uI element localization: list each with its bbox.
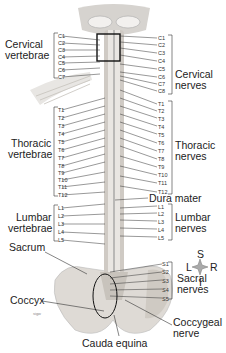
tick-left-T1: T1 (58, 107, 64, 113)
tick-right-T6: T6 (158, 140, 164, 146)
tick-left-L2: L2 (58, 213, 64, 219)
label-cervical-nerves: Cervical nerves (175, 69, 213, 91)
label-dura-mater: Dura mater (149, 193, 202, 204)
label-cauda-equina: Cauda equina (82, 338, 147, 349)
tick-right-T9: T9 (158, 164, 164, 170)
label-line: nerves (175, 80, 213, 91)
label-thoracic-vertebrae: Thoracic vertebrae (8, 138, 52, 160)
tick-left-T8: T8 (58, 163, 64, 169)
tick-left-C5: C5 (58, 60, 65, 66)
tick-left-L3: L3 (58, 221, 64, 227)
tick-right-S5: S5 (162, 296, 169, 302)
label-sacrum: Sacrum (9, 242, 45, 253)
watermark: sigw (33, 311, 41, 316)
label-line: vertebrae (8, 149, 52, 160)
tick-right-S4: S4 (162, 287, 169, 293)
label-line: nerve (173, 328, 222, 339)
tick-right-T4: T4 (158, 124, 164, 130)
tick-right-C3: C3 (158, 50, 165, 56)
tick-right-L3: L3 (158, 219, 164, 225)
label-line: vertebrae (5, 50, 49, 61)
tick-right-S3: S3 (162, 278, 169, 284)
tick-left-L1: L1 (58, 205, 64, 211)
tick-right-T8: T8 (158, 156, 164, 162)
label-coccyx: Coccyx (10, 295, 44, 306)
tick-left-C6: C6 (58, 67, 65, 73)
tick-left-T11: T11 (58, 184, 67, 190)
tick-left-L5: L5 (58, 237, 64, 243)
tick-right-S1: S1 (162, 261, 169, 267)
tick-left-T9: T9 (58, 170, 64, 176)
tick-right-C8: C8 (158, 88, 165, 94)
label-line: nerves (175, 223, 211, 234)
tick-left-T6: T6 (58, 147, 64, 153)
tick-right-L2: L2 (158, 211, 164, 217)
label-line: nerves (177, 284, 209, 295)
tick-right-L4: L4 (158, 227, 164, 233)
tick-left-T3: T3 (58, 123, 64, 129)
tick-right-C5: C5 (158, 66, 165, 72)
tick-left-T4: T4 (58, 131, 64, 137)
tick-right-T11: T11 (158, 180, 167, 186)
tick-right-T10: T10 (158, 172, 167, 178)
tick-right-T3: T3 (158, 116, 164, 122)
tick-right-C1: C1 (158, 35, 165, 41)
compass-superior: S (197, 249, 204, 260)
tick-right-C6: C6 (158, 74, 165, 80)
tick-right-C4: C4 (158, 58, 165, 64)
tick-left-T10: T10 (58, 177, 67, 183)
tick-right-T2: T2 (158, 108, 164, 114)
label-lumbar-nerves: Lumbar nerves (175, 212, 211, 234)
tick-left-C7: C7 (58, 74, 65, 80)
label-coccygeal-nerve: Coccygeal nerve (173, 317, 222, 339)
label-thoracic-nerves: Thoracic nerves (175, 140, 215, 162)
label-lumbar-vertebrae: Lumbar vertebrae (8, 212, 52, 234)
tick-left-L4: L4 (58, 229, 64, 235)
spinal-cord-diagram: Cervical vertebrae Thoracic vertebrae Lu… (0, 0, 226, 353)
tick-right-L5: L5 (158, 235, 164, 241)
tick-left-C2: C2 (58, 40, 65, 46)
tick-left-C3: C3 (58, 47, 65, 53)
label-sacral-nerves: Sacral nerves (177, 273, 209, 295)
tick-right-T5: T5 (158, 132, 164, 138)
tick-right-T7: T7 (158, 148, 164, 154)
label-cervical-vertebrae: Cervical vertebrae (5, 39, 49, 61)
compass-inferior: I (199, 277, 202, 288)
tick-right-T1: T1 (158, 101, 164, 107)
compass-left: L (186, 262, 192, 273)
tick-right-L1: L1 (158, 204, 164, 210)
label-line: nerves (175, 151, 215, 162)
tick-left-T7: T7 (58, 155, 64, 161)
tick-right-C2: C2 (158, 42, 165, 48)
tick-left-T5: T5 (58, 139, 64, 145)
compass-right: R (210, 262, 218, 273)
tick-left-C1: C1 (58, 33, 65, 39)
tick-left-T2: T2 (58, 115, 64, 121)
tick-right-T12: T12 (158, 189, 167, 195)
tick-right-S2: S2 (162, 269, 169, 275)
label-line: vertebrae (8, 223, 52, 234)
tick-left-T12: T12 (58, 192, 67, 198)
tick-right-C7: C7 (158, 81, 165, 87)
